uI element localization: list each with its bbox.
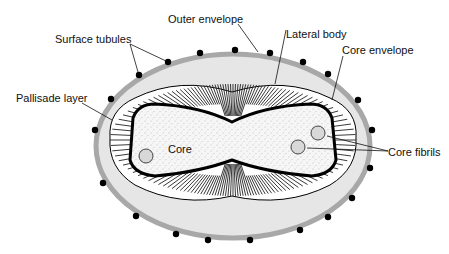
core-fibril xyxy=(311,126,325,140)
label-pallisade-layer: Pallisade layer xyxy=(16,92,88,104)
core-fibril xyxy=(291,140,305,154)
label-outer-envelope: Outer envelope xyxy=(168,13,243,25)
label-lateral-body: Lateral body xyxy=(286,28,347,40)
label-core-fibrils: Core fibrils xyxy=(388,146,441,158)
label-surface-tubules: Surface tubules xyxy=(55,33,131,45)
core-fibril xyxy=(139,149,153,163)
label-core: Core xyxy=(168,143,192,155)
label-core-envelope: Core envelope xyxy=(342,44,414,56)
